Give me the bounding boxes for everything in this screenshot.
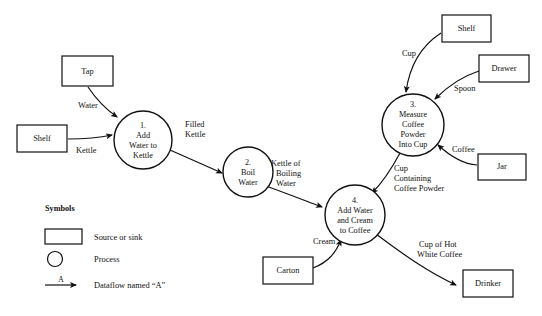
entity-shelf-left-label: Shelf <box>33 134 51 143</box>
entity-shelf-right[interactable]: Shelf <box>442 15 491 42</box>
entity-shelf-right-label: Shelf <box>458 24 476 33</box>
legend-circle-icon <box>48 252 63 267</box>
flow-filled-kettle <box>170 150 222 173</box>
entity-drinker[interactable]: Drinker <box>463 270 513 297</box>
flow-kettle-of-boiling-water <box>266 186 322 207</box>
process-3-line-4: Into Cup <box>399 140 428 149</box>
flow-kettle <box>68 135 112 139</box>
process-4-line-0: 4. <box>352 196 358 205</box>
process-1[interactable]: 1. Add Water to Kettle <box>114 111 172 169</box>
legend: Symbols Source or sink Process A Dataflo… <box>45 204 165 290</box>
process-3[interactable]: 3. Measure Coffee Powder Into Cup <box>382 94 444 156</box>
flow-label-kettle-boiling-0: Kettle of <box>271 159 301 168</box>
process-1-line-3: Kettle <box>133 151 153 160</box>
flow-label-coffee: Coffee <box>452 145 475 154</box>
process-4-line-1: Add Water <box>337 206 373 215</box>
entity-tap[interactable]: Tap <box>62 56 113 86</box>
flow-label-hot-white-coffee-0: Cup of Hot <box>419 240 457 249</box>
legend-arrow-label: A <box>58 275 64 284</box>
process-3-line-0: 3. <box>410 100 416 109</box>
legend-item-dataflow: A Dataflow named “A” <box>45 275 165 290</box>
process-2-line-0: 2. <box>245 158 251 167</box>
legend-item-process: Process <box>48 252 120 267</box>
entity-tap-label: Tap <box>81 67 93 76</box>
entity-carton-label: Carton <box>277 266 301 275</box>
process-1-line-0: 1. <box>140 121 146 130</box>
flow-label-kettle-boiling-2: Water <box>276 179 296 188</box>
legend-rectangle-icon <box>45 229 82 244</box>
flow-label-cup: Cup <box>402 49 416 58</box>
process-4-line-3: to Coffee <box>340 226 371 235</box>
process-3-line-2: Coffee <box>402 120 424 129</box>
legend-title: Symbols <box>45 204 75 213</box>
flow-label-filled-kettle-1: Kettle <box>185 130 206 139</box>
flow-label-cup-powder-1: Containing <box>394 174 432 183</box>
flow-label-kettle-boiling-1: Boiling <box>276 169 302 178</box>
entity-carton[interactable]: Carton <box>263 257 313 284</box>
flow-label-filled-kettle-0: Filled <box>185 120 205 129</box>
legend-label-source-or-sink: Source or sink <box>94 233 143 242</box>
flow-label-kettle: Kettle <box>76 146 97 155</box>
process-3-line-1: Measure <box>399 110 428 119</box>
flow-label-hot-white-coffee-1: White Coffee <box>417 250 462 259</box>
entity-drinker-label: Drinker <box>475 279 501 288</box>
diagram-canvas: Tap Shelf Shelf Drawer Jar Carton <box>0 0 542 316</box>
process-1-line-2: Water to <box>129 141 157 150</box>
entity-jar-label: Jar <box>497 162 507 171</box>
legend-label-process: Process <box>94 255 120 264</box>
process-2-line-1: Boil <box>241 168 256 177</box>
flow-label-spoon: Spoon <box>454 84 476 93</box>
entity-shelf-left[interactable]: Shelf <box>17 125 67 152</box>
legend-label-dataflow: Dataflow named “A” <box>94 281 165 290</box>
dataflow-diagram: Tap Shelf Shelf Drawer Jar Carton <box>0 0 542 316</box>
entity-drawer-label: Drawer <box>491 64 516 73</box>
legend-item-source-or-sink: Source or sink <box>45 229 143 244</box>
process-3-line-3: Powder <box>400 130 425 139</box>
process-2-line-2: Water <box>238 178 258 187</box>
flow-label-cup-powder-0: Cup <box>394 164 408 173</box>
flow-label-water: Water <box>78 101 98 110</box>
entity-drawer[interactable]: Drawer <box>479 55 529 82</box>
process-4-line-2: and Cream <box>337 216 373 225</box>
process-4[interactable]: 4. Add Water and Cream to Coffee <box>325 185 385 245</box>
process-1-line-1: Add <box>136 131 150 140</box>
flow-label-cup-powder-2: Coffee Powder <box>394 184 445 193</box>
process-2[interactable]: 2. Boil Water <box>223 147 273 197</box>
flow-label-cream: Cream <box>313 237 336 246</box>
entity-jar[interactable]: Jar <box>478 154 526 180</box>
flow-cup <box>406 33 441 92</box>
